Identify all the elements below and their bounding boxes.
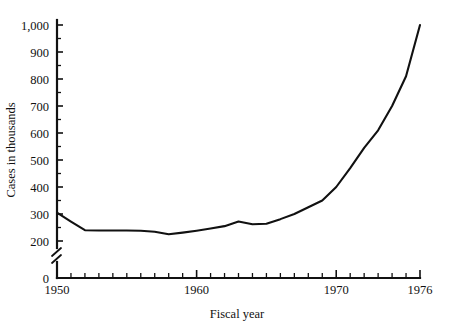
x-tick-labels: 1950196019701976 <box>45 283 433 297</box>
x-tick-label: 1976 <box>408 283 433 297</box>
y-tick-label: 200 <box>30 235 49 249</box>
y-tick-label: 900 <box>30 46 49 60</box>
y-tick-label: 300 <box>30 208 49 222</box>
x-tick-label: 1960 <box>184 283 209 297</box>
y-tick-labels: 02003004005006007008009001,000 <box>21 19 49 286</box>
data-series-line <box>57 25 420 234</box>
y-tick-label: 700 <box>30 100 49 114</box>
line-chart: 02003004005006007008009001,000 195019601… <box>0 0 452 327</box>
x-tick-label: 1950 <box>45 283 70 297</box>
y-tick-label: 800 <box>30 73 49 87</box>
y-axis-title: Cases in thousands <box>4 102 18 197</box>
x-axis-title: Fiscal year <box>210 307 265 321</box>
x-axis <box>57 270 420 278</box>
y-axis-break-marker <box>52 248 61 263</box>
y-tick-label: 1,000 <box>21 19 49 33</box>
y-tick-label: 400 <box>30 181 49 195</box>
chart-container: 02003004005006007008009001,000 195019601… <box>0 0 452 327</box>
x-tick-label: 1970 <box>324 283 349 297</box>
y-tick-label: 500 <box>30 154 49 168</box>
y-axis <box>52 20 63 278</box>
y-tick-label: 600 <box>30 127 49 141</box>
